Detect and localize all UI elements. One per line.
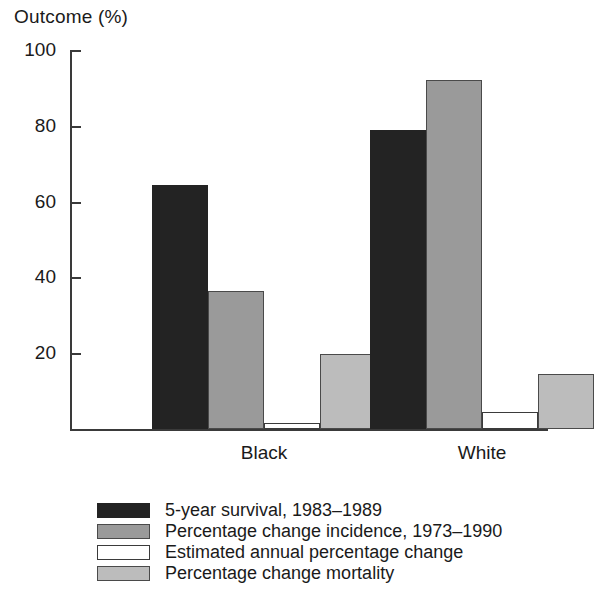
y-axis-tick-label: 40 xyxy=(35,266,56,288)
y-axis-line xyxy=(70,50,72,431)
y-axis-tick-mark xyxy=(70,126,81,128)
bar xyxy=(208,291,264,429)
legend-item: Percentage change mortality xyxy=(97,563,567,584)
bar xyxy=(482,412,538,429)
category-label-black: Black xyxy=(241,442,287,464)
y-axis-tick-mark xyxy=(70,353,81,355)
y-axis-tick-mark xyxy=(70,277,81,279)
legend-label: Percentage change mortality xyxy=(165,563,394,584)
chart-legend: 5-year survival, 1983–1989Percentage cha… xyxy=(97,500,567,584)
legend-label: Estimated annual percentage change xyxy=(165,542,463,563)
bar xyxy=(426,80,482,429)
legend-item: Estimated annual percentage change xyxy=(97,542,567,563)
bar xyxy=(320,354,376,429)
bar-chart-figure: Outcome (%) 10080604020 BlackWhite 5-yea… xyxy=(0,0,611,608)
legend-swatch xyxy=(97,503,150,518)
legend-item: 5-year survival, 1983–1989 xyxy=(97,500,567,521)
plot-area: 10080604020 BlackWhite xyxy=(70,50,548,431)
chart-axis-title: Outcome (%) xyxy=(14,6,128,28)
category-label-white: White xyxy=(458,442,507,464)
legend-swatch xyxy=(97,524,150,539)
y-axis-tick-mark xyxy=(70,50,81,52)
legend-swatch xyxy=(97,545,150,560)
legend-label: 5-year survival, 1983–1989 xyxy=(165,500,382,521)
bar xyxy=(152,185,208,429)
legend-item: Percentage change incidence, 1973–1990 xyxy=(97,521,567,542)
legend-swatch xyxy=(97,566,150,581)
bar xyxy=(264,423,320,429)
legend-label: Percentage change incidence, 1973–1990 xyxy=(165,521,502,542)
y-axis-tick-mark xyxy=(70,202,81,204)
y-axis-tick-label: 80 xyxy=(35,114,56,136)
bar xyxy=(370,130,426,429)
bar xyxy=(538,374,594,429)
y-axis-tick-label: 100 xyxy=(24,39,56,61)
y-axis-tick-label: 60 xyxy=(35,190,56,212)
y-axis-tick-label: 20 xyxy=(35,342,56,364)
x-axis-line xyxy=(70,429,548,431)
